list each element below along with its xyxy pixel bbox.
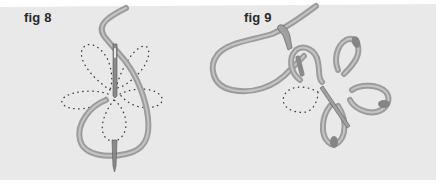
fig-9-drawing — [213, 6, 390, 148]
petal-icon — [323, 106, 345, 148]
dotted-petal-outline-icon — [283, 87, 318, 112]
petal-icon — [336, 35, 362, 74]
embroidery-diagram — [0, 0, 440, 186]
needle-top-icon — [278, 25, 292, 50]
needle-icon — [112, 44, 117, 172]
fig-8-drawing — [62, 8, 162, 172]
illustration-canvas: fig 8 fig 9 — [0, 0, 440, 186]
petal-icon — [350, 86, 390, 113]
